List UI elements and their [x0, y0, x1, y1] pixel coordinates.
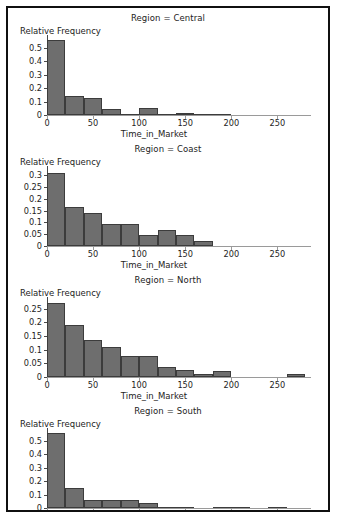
x-tick-mark — [139, 509, 140, 512]
x-tick-label: 250 — [270, 119, 286, 128]
y-tick-label: 0.5 — [8, 436, 42, 445]
facet-panel-container: Region = CentralRelative Frequency00.10.… — [8, 13, 328, 512]
y-tick-label: 0.05 — [8, 230, 42, 239]
y-axis-label: Relative Frequency — [20, 288, 101, 298]
facet-title: Region = Central — [8, 13, 328, 24]
x-tick-label: 50 — [88, 250, 98, 259]
y-tick-label: 0.15 — [8, 206, 42, 215]
y-tick-label: 0 — [8, 242, 42, 251]
y-tick-label: 0 — [8, 111, 42, 120]
x-axis-line — [47, 115, 311, 116]
histogram-bar — [231, 507, 249, 508]
x-tick-mark — [185, 509, 186, 512]
y-axis-label: Relative Frequency — [20, 157, 101, 167]
facet-panel: Region = CentralRelative Frequency00.10.… — [8, 13, 328, 141]
x-tick-label: 50 — [88, 381, 98, 390]
histogram-bar — [65, 488, 83, 508]
histogram-bar — [176, 113, 194, 115]
y-tick-label: 0.1 — [8, 97, 42, 106]
plot-area: Relative Frequency00.050.10.150.20.25050… — [8, 286, 328, 398]
histogram-bar — [84, 340, 102, 377]
histogram-bar — [176, 235, 194, 246]
histogram-bar — [194, 241, 212, 246]
y-tick-label: 0.4 — [8, 450, 42, 459]
x-tick-label: 50 — [88, 119, 98, 128]
x-tick-label: 0 — [44, 381, 49, 390]
facet-title: Region = Coast — [8, 144, 328, 155]
x-tick-mark — [277, 509, 278, 512]
y-tick-label: 0.2 — [8, 318, 42, 327]
x-tick-mark — [47, 509, 48, 512]
x-tick-mark — [93, 509, 94, 512]
y-tick-label: 0.05 — [8, 359, 42, 368]
histogram-bar — [213, 371, 231, 377]
figure-frame: Region = CentralRelative Frequency00.10.… — [6, 6, 330, 512]
histogram-bar — [213, 507, 231, 508]
x-tick-label: 0 — [44, 250, 49, 259]
x-tick-mark — [231, 509, 232, 512]
histogram-bar — [121, 500, 139, 508]
y-tick-label: 0.2 — [8, 194, 42, 203]
histogram-bar — [47, 433, 65, 508]
histogram-bar — [287, 374, 305, 377]
histogram-bar — [47, 173, 65, 246]
y-tick-label: 0.25 — [8, 182, 42, 191]
histogram-bar — [47, 303, 65, 377]
x-tick-label: 150 — [177, 119, 193, 128]
y-tick-label: 0.1 — [8, 218, 42, 227]
histogram-bar — [158, 114, 176, 115]
facet-panel: Region = CoastRelative Frequency00.050.1… — [8, 144, 328, 272]
histogram-bar — [268, 507, 286, 508]
histogram-bar — [65, 96, 83, 115]
x-tick-label: 100 — [131, 250, 147, 259]
histogram-bar — [158, 367, 176, 377]
x-tick-label: 200 — [223, 250, 239, 259]
histogram-bar — [121, 114, 139, 115]
histogram-bar — [102, 500, 120, 508]
y-axis-label: Relative Frequency — [20, 419, 101, 429]
y-tick-label: 0.1 — [8, 490, 42, 499]
x-tick-label: 0 — [44, 119, 49, 128]
histogram-bar — [194, 374, 212, 377]
histogram-bar — [84, 98, 102, 115]
facet-title: Region = North — [8, 275, 328, 286]
histogram-bar — [102, 224, 120, 246]
x-axis-label: Time_in_Market — [121, 391, 187, 401]
histogram-bar — [84, 213, 102, 246]
histogram-bar — [65, 207, 83, 246]
histogram-bar — [158, 507, 176, 508]
plot-area: Relative Frequency00.10.20.30.40.5050100… — [8, 417, 328, 512]
x-tick-label: 150 — [177, 250, 193, 259]
histogram-bar — [139, 235, 157, 246]
x-tick-label: 150 — [177, 381, 193, 390]
histogram-bar — [121, 224, 139, 246]
y-tick-label: 0.3 — [8, 70, 42, 79]
histogram-bar — [121, 356, 139, 377]
y-tick-label: 0.5 — [8, 43, 42, 52]
y-tick-label: 0.3 — [8, 463, 42, 472]
x-tick-label: 250 — [270, 381, 286, 390]
y-tick-label: 0.3 — [8, 171, 42, 180]
histogram-bar — [102, 347, 120, 377]
histogram-bar — [176, 507, 194, 508]
x-axis-line — [47, 377, 311, 378]
x-tick-label: 100 — [131, 381, 147, 390]
facet-panel: Region = NorthRelative Frequency00.050.1… — [8, 275, 328, 403]
histogram-bar — [194, 114, 212, 115]
x-axis-line — [47, 246, 311, 247]
histogram-bar — [65, 325, 83, 377]
histogram-bar — [139, 356, 157, 377]
y-tick-label: 0.15 — [8, 331, 42, 340]
facet-panel: Region = SouthRelative Frequency00.10.20… — [8, 406, 328, 512]
x-tick-label: 100 — [131, 119, 147, 128]
plot-area: Relative Frequency00.050.10.150.20.250.3… — [8, 155, 328, 267]
x-tick-label: 250 — [270, 250, 286, 259]
x-axis-label: Time_in_Market — [121, 260, 187, 270]
y-tick-label: 0 — [8, 373, 42, 382]
y-tick-label: 0 — [8, 504, 42, 513]
y-axis-label: Relative Frequency — [20, 26, 101, 36]
histogram-bar — [47, 40, 65, 115]
facet-title: Region = South — [8, 406, 328, 417]
y-tick-label: 0.2 — [8, 84, 42, 93]
plot-area: Relative Frequency00.10.20.30.40.5050100… — [8, 24, 328, 136]
